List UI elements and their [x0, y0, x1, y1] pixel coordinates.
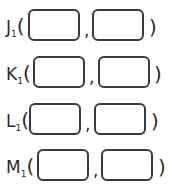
y-coordinate-input[interactable] — [92, 9, 144, 41]
close-paren: ) — [149, 15, 157, 39]
point-row-m: M1( , ) — [0, 148, 169, 184]
y-coordinate-input[interactable] — [94, 103, 146, 135]
y-coordinate-input[interactable] — [101, 149, 153, 181]
point-row-k: K1( , ) — [0, 55, 169, 91]
open-paren: ( — [17, 14, 25, 38]
point-label: L1( — [6, 110, 29, 133]
comma-separator: , — [93, 160, 98, 180]
open-paren: ( — [23, 61, 31, 85]
point-label: M1( — [6, 156, 34, 179]
point-row-j: J1( , ) — [0, 8, 169, 44]
y-coordinate-input[interactable] — [98, 56, 150, 88]
comma-separator: , — [89, 67, 94, 87]
close-paren: ) — [151, 109, 159, 133]
comma-separator: , — [85, 114, 90, 134]
point-row-l: L1( , ) — [0, 102, 169, 138]
x-coordinate-input[interactable] — [37, 149, 89, 181]
open-paren: ( — [21, 108, 29, 132]
point-label: J1( — [6, 16, 25, 39]
x-coordinate-input[interactable] — [29, 103, 81, 135]
close-paren: ) — [158, 155, 166, 179]
point-label: K1( — [6, 63, 31, 86]
open-paren: ( — [26, 154, 34, 178]
x-coordinate-input[interactable] — [28, 9, 80, 41]
point-letter: M — [6, 157, 21, 177]
x-coordinate-input[interactable] — [33, 56, 85, 88]
close-paren: ) — [154, 62, 162, 86]
comma-separator: , — [84, 20, 89, 40]
point-letter: K — [6, 64, 17, 84]
